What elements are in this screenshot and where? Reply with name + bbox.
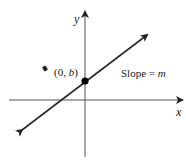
- slope-label-var: m: [158, 67, 166, 79]
- intercept-label-close: ): [74, 66, 78, 78]
- coordinate-plane: [0, 0, 186, 167]
- y-intercept-point: [81, 77, 88, 84]
- intercept-label-open: (0,: [54, 66, 69, 78]
- slope-label-text: Slope =: [121, 67, 158, 79]
- intercept-label: (0, b): [54, 67, 78, 78]
- x-axis-label: x: [176, 106, 181, 118]
- slope-label: Slope = m: [121, 68, 166, 79]
- y-axis-label: y: [74, 13, 79, 25]
